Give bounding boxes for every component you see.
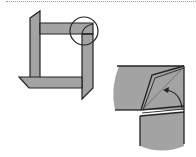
corner-detail — [113, 66, 184, 151]
right-strip — [82, 34, 93, 99]
origami-diagram — [0, 0, 196, 157]
left-strip — [30, 11, 40, 78]
frame-overview — [19, 11, 98, 99]
bottom-strip — [19, 77, 82, 88]
detail-lower-paper — [140, 112, 184, 151]
